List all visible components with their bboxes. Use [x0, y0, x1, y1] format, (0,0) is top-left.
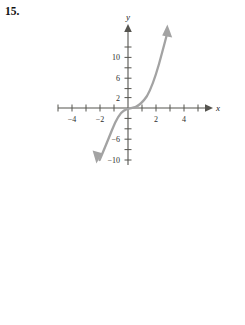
x-tick-label-4-15: 4	[182, 115, 186, 124]
figure-15-cubic-graph: −4 −2 2 4 10 6 2 −6 −10 x y	[0, 0, 245, 165]
x-tick-label-neg2-15: −2	[96, 115, 105, 124]
curve-arrowhead-upper-right-15	[162, 25, 172, 38]
x-tick-label-2-15: 2	[154, 115, 158, 124]
y-tick-label-10-15: 10	[112, 53, 120, 62]
y-axis-arrowhead-15	[124, 24, 132, 32]
y-tick-label-neg6-15: −6	[111, 135, 120, 144]
cubic-curve-15	[100, 34, 167, 160]
y-tick-label-6-15: 6	[116, 74, 120, 83]
y-tick-label-2-15: 2	[116, 94, 120, 103]
x-axis-label-15: x	[215, 103, 220, 113]
graph-15-svg: −4 −2 2 4 10 6 2 −6 −10 x y	[0, 0, 245, 165]
x-axis-arrowhead-15	[205, 104, 213, 112]
x-tick-label-neg4-15: −4	[68, 115, 77, 124]
y-tick-label-neg10-15: −10	[107, 156, 120, 165]
y-axis-label-15: y	[125, 12, 130, 22]
